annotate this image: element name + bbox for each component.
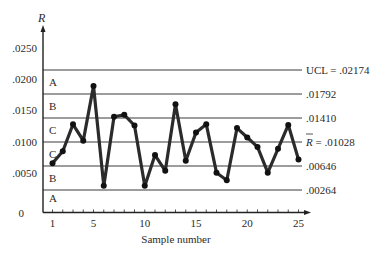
data-point xyxy=(214,170,220,176)
y-axis-arrow-icon xyxy=(41,25,46,32)
data-series xyxy=(50,83,302,189)
data-point xyxy=(285,122,291,128)
data-point xyxy=(275,146,281,152)
data-point xyxy=(234,125,240,131)
data-point xyxy=(121,112,127,118)
data-point xyxy=(91,83,97,89)
x-tick-label: 10 xyxy=(139,217,151,229)
control-line-label-lower-2sigma: .00264 xyxy=(306,184,337,196)
data-point xyxy=(142,183,148,189)
control-line-label-lower-1sigma: .00646 xyxy=(306,160,337,172)
zone-label-b: B xyxy=(49,172,56,184)
data-point xyxy=(173,101,179,107)
x-tick-label: 20 xyxy=(242,217,254,229)
zone-label-c: C xyxy=(49,124,56,136)
x-axis-arrow-icon xyxy=(304,210,311,215)
x-tick-label: 25 xyxy=(293,217,305,229)
y-tick-label: .0250 xyxy=(12,42,37,54)
y-tick-label: .0050 xyxy=(12,167,37,179)
data-point xyxy=(183,158,189,164)
y-tick-label: .0100 xyxy=(12,136,37,148)
control-line-label-upper-2sigma: .01792 xyxy=(306,88,336,100)
control-line-label-center-line: R = .01028 xyxy=(305,136,355,148)
data-point xyxy=(80,138,86,144)
x-tick-label: 5 xyxy=(91,217,97,229)
data-point xyxy=(193,129,199,135)
data-point xyxy=(224,177,230,183)
zone-label-b: B xyxy=(49,100,56,112)
data-point xyxy=(132,123,138,129)
zone-labels: ABCCBA xyxy=(49,76,57,204)
data-point xyxy=(60,148,66,154)
data-point xyxy=(50,160,56,166)
data-point xyxy=(265,170,271,176)
x-tick-label: 1 xyxy=(50,217,56,229)
series-line xyxy=(53,86,299,186)
data-point xyxy=(203,121,209,127)
y-tick-label: 0 xyxy=(19,207,25,219)
y-axis-title: R xyxy=(37,11,46,25)
control-line-label-upper-1sigma: .01410 xyxy=(306,112,337,124)
data-point xyxy=(244,134,250,140)
x-tick-label: 15 xyxy=(191,217,203,229)
data-point xyxy=(255,144,261,150)
data-point xyxy=(152,152,158,158)
data-point xyxy=(162,168,168,174)
control-line-label-UCL: UCL = .02174 xyxy=(306,64,370,76)
x-axis-title: Sample number xyxy=(141,233,211,245)
r-control-chart: UCL = .02174.01792.01410R = .01028.00646… xyxy=(0,0,382,253)
zone-label-a: A xyxy=(49,192,57,204)
axes: 15101520250.0050.0100.0150.0200.0250 xyxy=(12,25,311,229)
data-point xyxy=(111,114,117,120)
data-point xyxy=(70,121,76,127)
data-point xyxy=(296,156,302,162)
data-point xyxy=(101,183,107,189)
y-tick-label: .0200 xyxy=(12,73,37,85)
y-tick-label: .0150 xyxy=(12,104,37,116)
zone-label-a: A xyxy=(49,76,57,88)
